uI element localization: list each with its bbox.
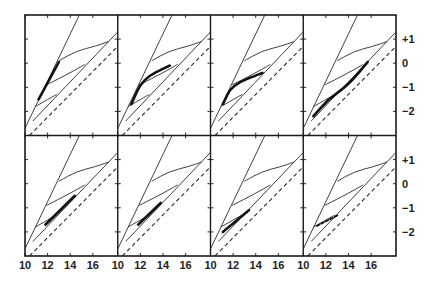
highlight-trajectory	[138, 203, 161, 225]
upper-S-curve-line	[337, 162, 387, 181]
x-tick-label: 12	[41, 259, 53, 271]
steep-solid-line-line	[303, 15, 357, 128]
x-tick-label: 14	[64, 259, 77, 271]
panel-3	[211, 15, 304, 136]
upper-S-curve-line	[337, 42, 387, 61]
x-tick-label: 10	[19, 259, 31, 271]
steep-solid-line-line	[118, 136, 172, 249]
upper-S-curve-line	[244, 162, 294, 181]
middle-curve-line	[139, 185, 178, 206]
x-tick-label: 12	[134, 259, 146, 271]
panel-1	[25, 15, 118, 136]
y-tick-label: 0	[402, 178, 408, 190]
highlight-trajectory	[223, 210, 249, 232]
right-solid-line-line	[126, 152, 211, 241]
x-tick-label: 10	[204, 259, 216, 271]
right-solid-line-line	[33, 32, 118, 121]
upper-S-curve-line	[59, 42, 109, 61]
upper-S-curve-line	[59, 162, 109, 181]
x-tick-label: 14	[250, 259, 263, 271]
right-solid-line-line	[311, 152, 396, 241]
upper-S-curve-line	[152, 162, 202, 181]
y-tick-label: −1	[402, 81, 415, 93]
right-solid-line-line	[218, 152, 303, 241]
panel-4	[303, 15, 396, 136]
steep-solid-line-line	[25, 136, 79, 249]
y-tick-label: +1	[402, 33, 415, 45]
right-solid-line-line	[311, 32, 396, 121]
panel-7	[211, 136, 304, 257]
highlight-trajectory	[223, 73, 263, 104]
x-tick-label: 10	[112, 259, 124, 271]
highlight-trajectory	[313, 62, 367, 116]
right-solid-line-line	[218, 32, 303, 121]
highlight-trajectory	[131, 66, 170, 105]
middle-curve-line	[47, 185, 85, 206]
steep-solid-line-line	[118, 15, 172, 128]
x-tick-label: 12	[227, 259, 239, 271]
steep-solid-line-line	[303, 136, 357, 249]
x-tick-label: 14	[342, 259, 355, 271]
upper-S-curve-line	[152, 42, 202, 61]
x-tick-label: 14	[157, 259, 170, 271]
right-solid-line-line	[126, 32, 211, 121]
y-tick-label: −2	[402, 105, 415, 117]
y-tick-label: 0	[402, 57, 408, 69]
middle-curve-line	[232, 185, 270, 206]
x-tick-label: 16	[272, 259, 284, 271]
small-multiples-figure: 10121416101214161012141610121416 +10−1−2…	[0, 0, 437, 285]
middle-curve-line	[325, 185, 364, 206]
y-tick-label: +1	[402, 154, 415, 166]
steep-solid-line-line	[25, 15, 79, 128]
x-tick-label: 16	[365, 259, 377, 271]
y-tick-label: −2	[402, 226, 415, 238]
x-tick-label: 16	[179, 259, 191, 271]
y-axis-labels: +10−1−2+10−1−2	[402, 33, 415, 238]
x-tick-label: 16	[87, 259, 99, 271]
x-tick-label: 10	[297, 259, 309, 271]
upper-S-curve-line	[244, 42, 294, 61]
x-axis-labels: 10121416101214161012141610121416	[19, 259, 377, 271]
panel-5	[25, 136, 118, 257]
y-tick-label: −1	[402, 202, 415, 214]
panel-2	[118, 15, 211, 136]
highlight-trajectory	[45, 196, 74, 225]
steep-solid-line-line	[211, 136, 265, 249]
middle-curve-line	[232, 64, 270, 85]
x-tick-label: 12	[320, 259, 332, 271]
steep-solid-line-line	[211, 15, 265, 128]
panel-8	[303, 136, 396, 257]
panel-6	[118, 136, 211, 257]
